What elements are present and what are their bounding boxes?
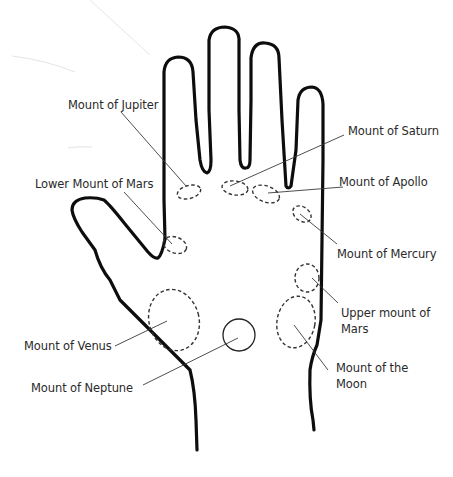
mount-apollo-shape	[250, 182, 282, 207]
mount-moon-shape	[273, 293, 319, 351]
label-mount-moon-line2: Moon	[336, 377, 367, 391]
label-mount-saturn: Mount of Saturn	[348, 124, 439, 138]
leader-apollo	[268, 187, 343, 193]
hand-outline-thumb	[72, 198, 197, 450]
faint-stroke	[68, 147, 92, 148]
label-upper-mount-mars-line2: Mars	[341, 322, 368, 336]
mount-venus-shape	[142, 284, 206, 357]
label-mount-moon-line1: Mount of the	[336, 361, 408, 375]
leader-mercury	[300, 214, 337, 244]
mount-saturn-shape	[221, 179, 249, 196]
label-mount-jupiter: Mount of Jupiter	[68, 98, 158, 112]
mount-neptune-shape	[223, 319, 255, 351]
mount-jupiter-shape	[176, 183, 203, 202]
label-mount-neptune: Mount of Neptune	[31, 381, 133, 395]
label-mount-venus: Mount of Venus	[24, 339, 112, 353]
leader-upper-mars	[312, 278, 338, 303]
hand-outline-drawing	[0, 0, 453, 477]
faint-stroke	[12, 56, 75, 72]
label-mount-apollo: Mount of Apollo	[339, 175, 428, 189]
label-lower-mount-mars: Lower Mount of Mars	[35, 177, 153, 191]
label-upper-mount-mars-line1: Upper mount of	[341, 306, 430, 320]
leader-jupiter	[121, 112, 186, 186]
hand-mounts-diagram: Mount of Jupiter Mount of Saturn Mount o…	[0, 0, 453, 477]
label-mount-mercury: Mount of Mercury	[337, 247, 436, 261]
mount-upper-mars-shape	[295, 264, 319, 292]
faint-stroke	[90, 0, 150, 55]
